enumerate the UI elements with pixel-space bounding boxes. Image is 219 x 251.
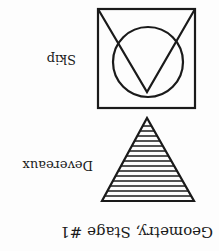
square-circle-v-icon <box>98 9 195 108</box>
geometry-card: Geometry, Stage #1 Devereaux Skip <box>0 0 219 251</box>
shapes-canvas <box>0 0 219 251</box>
triangle-icon <box>94 118 199 201</box>
